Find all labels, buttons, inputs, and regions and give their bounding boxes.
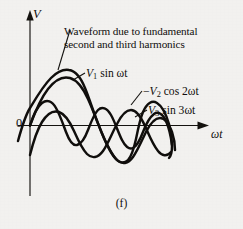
waveform-note-line-1: Waveform due to fundamental <box>64 25 197 38</box>
waveform-note: Waveform due to fundamental second and t… <box>64 25 197 50</box>
waveform-note-line-2: second and third harmonics <box>64 38 197 51</box>
curve-label-v1: V1 sin ωt <box>86 67 127 82</box>
waveform-figure: Waveform due to fundamental second and t… <box>0 0 243 229</box>
curve-label-v3: V3 sin 3ωt <box>148 104 195 119</box>
y-axis-label: V <box>33 7 41 21</box>
figure-caption: (f) <box>0 197 243 210</box>
curve-label-v2: −V2 cos 2ωt <box>143 85 199 100</box>
curve-label-v3-expr: sin 3ωt <box>159 104 195 117</box>
leader-line-v2 <box>131 91 142 105</box>
curve-label-v2-expr: cos 2ωt <box>161 85 199 98</box>
x-axis-arrowhead <box>198 122 210 130</box>
origin-label: 0 <box>16 117 22 131</box>
curve-label-v1-expr: sin ωt <box>97 67 127 80</box>
x-axis-label: ωt <box>211 128 222 141</box>
